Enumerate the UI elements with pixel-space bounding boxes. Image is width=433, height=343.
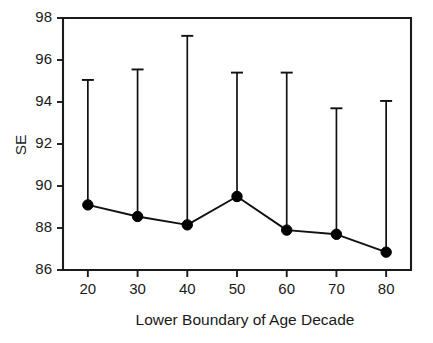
data-point-marker: [182, 220, 192, 230]
chart-canvas: 86889092949698 20304050607080 Lower Boun…: [0, 0, 433, 343]
y-tick-label: 88: [35, 218, 52, 235]
y-tick-label: 90: [35, 176, 52, 193]
series-line: [88, 197, 386, 253]
data-point-marker: [282, 225, 292, 235]
y-tick-label: 94: [35, 92, 52, 109]
data-point-marker: [381, 247, 391, 257]
y-tick-label: 86: [35, 260, 52, 277]
data-markers: [83, 191, 392, 257]
y-tick-label: 96: [35, 50, 52, 67]
x-tick-label: 30: [129, 280, 146, 297]
data-point-marker: [132, 211, 142, 221]
y-tick-label: 92: [35, 134, 52, 151]
x-tick-label: 20: [80, 280, 97, 297]
x-tick-label: 60: [278, 280, 295, 297]
x-axis-ticks: 20304050607080: [80, 270, 395, 297]
data-point-marker: [232, 191, 242, 201]
error-bars: [82, 36, 392, 252]
x-axis-title: Lower Boundary of Age Decade: [136, 311, 355, 328]
y-axis-ticks: 86889092949698: [35, 8, 63, 277]
y-tick-label: 98: [35, 8, 52, 25]
x-tick-label: 80: [378, 280, 395, 297]
y-axis-title: SE: [12, 135, 29, 156]
x-tick-label: 70: [328, 280, 345, 297]
chart-figure: 86889092949698 20304050607080 Lower Boun…: [0, 0, 433, 343]
data-point-marker: [83, 200, 93, 210]
x-tick-label: 50: [229, 280, 246, 297]
x-tick-label: 40: [179, 280, 196, 297]
data-point-marker: [331, 229, 341, 239]
